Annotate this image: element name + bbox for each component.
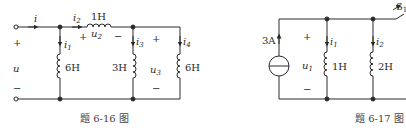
node bbox=[325, 97, 329, 101]
terminal-bottom bbox=[14, 97, 18, 101]
circuit-figures: i i2 1H + u2 − i1 i3 i4 + u − 6H 3H + u3… bbox=[0, 0, 406, 131]
node bbox=[58, 97, 62, 101]
node bbox=[371, 17, 375, 21]
label-u3: u3 bbox=[150, 64, 161, 77]
label-minus: − bbox=[303, 84, 311, 95]
label-u: u bbox=[13, 63, 19, 74]
label-i1: i1 bbox=[330, 36, 338, 49]
label-i2: i2 bbox=[376, 36, 384, 49]
label-i4: i4 bbox=[183, 36, 191, 49]
label-i3: i3 bbox=[136, 36, 144, 49]
label-s1: S1 bbox=[396, 1, 406, 14]
label-6h: 6H bbox=[185, 62, 200, 73]
node bbox=[371, 97, 375, 101]
label-1h: 1H bbox=[91, 11, 106, 22]
figure-6-17 bbox=[269, 6, 406, 101]
label-i: i bbox=[34, 13, 37, 24]
inductor-2h bbox=[370, 52, 373, 76]
label-plus: + bbox=[13, 37, 21, 48]
node bbox=[131, 25, 135, 29]
node bbox=[325, 17, 329, 21]
label-6h: 6H bbox=[65, 62, 80, 73]
label-u1: u1 bbox=[302, 60, 313, 73]
inductor-1h bbox=[87, 24, 111, 27]
label-i2: i2 bbox=[73, 12, 81, 25]
caption-6-16: 题 6-16 图 bbox=[80, 113, 129, 124]
inductor-1h bbox=[324, 52, 327, 76]
label-3a: 3A bbox=[262, 35, 276, 46]
inductor-3h bbox=[133, 54, 136, 78]
node bbox=[58, 25, 62, 29]
label-u2: u2 bbox=[91, 28, 102, 41]
label-1h: 1H bbox=[332, 61, 347, 72]
node bbox=[131, 97, 135, 101]
inductor-6h-left bbox=[57, 54, 60, 78]
label-plus: + bbox=[303, 31, 311, 42]
terminal-top bbox=[14, 25, 18, 29]
figure-6-16-labels: i i2 1H + u2 − i1 i3 i4 + u − 6H 3H + u3… bbox=[13, 11, 200, 124]
label-minus: − bbox=[13, 83, 21, 94]
label-plus: + bbox=[152, 33, 160, 44]
caption-6-17: 题 6-17 图 bbox=[355, 113, 404, 124]
label-2h: 2H bbox=[378, 61, 393, 72]
label-plus: + bbox=[79, 31, 87, 42]
label-i1: i1 bbox=[64, 39, 72, 52]
label-minus: − bbox=[114, 31, 122, 42]
switch-s1 bbox=[396, 14, 404, 19]
label-3h: 3H bbox=[112, 62, 127, 73]
inductor-6h-right bbox=[177, 54, 180, 78]
label-minus: − bbox=[152, 83, 160, 94]
